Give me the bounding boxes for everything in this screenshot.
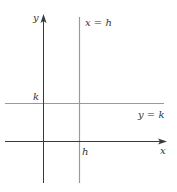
horizontal-line-label: y = k <box>137 109 164 120</box>
coordinate-diagram: y x x = h y = k k h <box>0 0 177 192</box>
k-tick-label: k <box>33 91 39 102</box>
vertical-line-label: x = h <box>85 17 112 28</box>
h-tick-label: h <box>82 146 88 157</box>
x-axis-label: x <box>160 145 166 156</box>
y-axis-label: y <box>32 12 39 23</box>
